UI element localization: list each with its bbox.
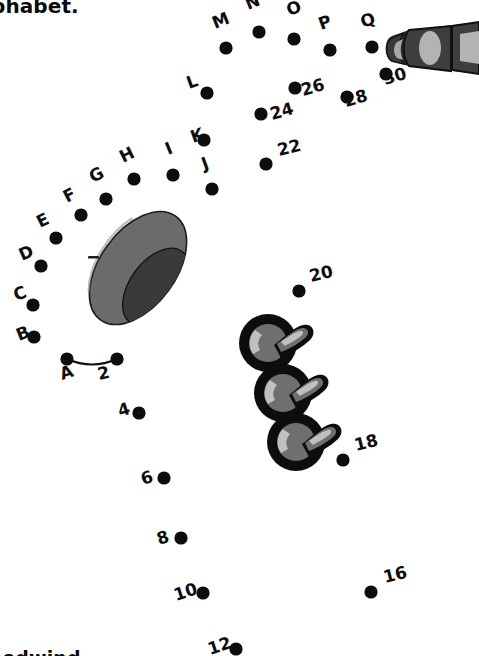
clarinet-key-2 bbox=[254, 364, 329, 422]
letter-dot-L[interactable]: L bbox=[184, 70, 214, 99]
number-dot-marker[interactable] bbox=[174, 531, 187, 544]
number-dot-marker[interactable] bbox=[132, 406, 145, 419]
number-dot-24[interactable]: 24 bbox=[254, 98, 296, 124]
number-dot-marker[interactable] bbox=[336, 453, 349, 466]
letter-dot-label: L bbox=[184, 70, 201, 93]
number-dot-label: 16 bbox=[381, 562, 409, 587]
bell-tick-mark bbox=[88, 256, 99, 259]
number-dot-label: 2 bbox=[96, 362, 112, 384]
clarinet-bell bbox=[70, 194, 207, 342]
letter-dot-I[interactable]: I bbox=[162, 138, 180, 182]
letter-dot-label: M bbox=[209, 8, 232, 33]
letter-dot-marker[interactable] bbox=[49, 231, 62, 244]
letter-dot-marker[interactable] bbox=[205, 182, 218, 195]
letter-dot-label: O bbox=[284, 0, 304, 20]
worksheet-canvas: ABCDEFGHIJKLMNOPQ 2468101216182022242628… bbox=[0, 0, 479, 656]
letter-dot-E[interactable]: E bbox=[33, 209, 63, 245]
number-dot-label: 6 bbox=[138, 466, 155, 489]
number-dot-label: 20 bbox=[307, 261, 335, 286]
letter-dot-P[interactable]: P bbox=[316, 11, 337, 57]
number-dot-4[interactable]: 4 bbox=[115, 398, 146, 421]
number-dot-marker[interactable] bbox=[292, 284, 305, 297]
letter-dot-K[interactable]: K bbox=[188, 123, 211, 147]
number-dot-label: 24 bbox=[268, 98, 296, 124]
letter-dot-label: G bbox=[85, 162, 107, 186]
number-dot-label: 18 bbox=[352, 430, 380, 455]
letter-dot-marker[interactable] bbox=[200, 86, 213, 99]
letter-dot-label: F bbox=[59, 183, 79, 206]
letter-dot-Q[interactable]: Q bbox=[358, 8, 379, 54]
letter-dot-label: I bbox=[162, 138, 175, 159]
number-dot-10[interactable]: 10 bbox=[171, 578, 210, 604]
clarinet-key-1 bbox=[239, 314, 314, 372]
letter-dot-G[interactable]: G bbox=[85, 162, 112, 205]
number-dot-label: 10 bbox=[171, 578, 200, 604]
letter-dot-D[interactable]: D bbox=[15, 241, 47, 273]
letter-dot-label: D bbox=[15, 241, 36, 265]
number-dot-label: 22 bbox=[275, 135, 303, 160]
number-dot-label: 26 bbox=[299, 74, 327, 100]
letter-dot-label: E bbox=[33, 209, 52, 232]
number-dot-label: 30 bbox=[381, 63, 409, 89]
number-dot-8[interactable]: 8 bbox=[154, 526, 188, 549]
number-dot-30[interactable]: 30 bbox=[379, 63, 409, 89]
number-dot-2[interactable]: 2 bbox=[96, 352, 124, 384]
number-dot-20[interactable]: 20 bbox=[292, 261, 335, 298]
dot-to-dot-artwork: ABCDEFGHIJKLMNOPQ 2468101216182022242628… bbox=[0, 0, 479, 656]
letter-dot-marker[interactable] bbox=[99, 192, 112, 205]
caption-bottom: oodwind t because bbox=[0, 596, 94, 656]
a-to-2-guide-stroke bbox=[67, 359, 117, 365]
number-dot-16[interactable]: 16 bbox=[364, 562, 409, 599]
letter-dot-label: Q bbox=[358, 8, 378, 32]
number-dot-marker[interactable] bbox=[157, 471, 170, 484]
letter-dot-label: A bbox=[57, 360, 76, 383]
number-dot-26[interactable]: 26 bbox=[288, 74, 326, 100]
letter-dot-label: C bbox=[11, 282, 30, 305]
number-dot-marker[interactable] bbox=[110, 352, 123, 365]
letter-dot-B[interactable]: B bbox=[13, 321, 41, 344]
number-dot-marker[interactable] bbox=[254, 107, 267, 120]
letter-dot-marker[interactable] bbox=[323, 43, 336, 56]
letter-dot-layer: ABCDEFGHIJKLMNOPQ bbox=[11, 0, 379, 384]
number-dot-18[interactable]: 18 bbox=[336, 430, 380, 467]
caption-top: phabet. bbox=[0, 0, 79, 18]
letter-dot-A[interactable]: A bbox=[57, 352, 76, 383]
letter-dot-M[interactable]: M bbox=[209, 8, 233, 55]
letter-dot-marker[interactable] bbox=[365, 40, 378, 53]
letter-dot-marker[interactable] bbox=[219, 41, 232, 54]
letter-dot-label: P bbox=[316, 11, 335, 34]
number-dot-label: 8 bbox=[154, 526, 171, 549]
letter-dot-F[interactable]: F bbox=[59, 183, 87, 221]
number-dot-marker[interactable] bbox=[259, 157, 272, 170]
letter-dot-marker[interactable] bbox=[127, 172, 140, 185]
clarinet-key-3 bbox=[267, 413, 342, 471]
letter-dot-C[interactable]: C bbox=[11, 282, 40, 312]
letter-dot-marker[interactable] bbox=[252, 25, 265, 38]
number-dot-22[interactable]: 22 bbox=[259, 135, 303, 171]
letter-dot-O[interactable]: O bbox=[284, 0, 304, 46]
letter-dot-label: J bbox=[198, 153, 212, 174]
number-dot-label: 12 bbox=[205, 632, 234, 656]
letter-dot-marker[interactable] bbox=[166, 168, 179, 181]
letter-dot-label: H bbox=[116, 142, 138, 166]
number-dot-label: 28 bbox=[342, 85, 370, 111]
letter-dot-label: N bbox=[242, 0, 263, 14]
caption-bottom-line-1: oodwind bbox=[0, 646, 94, 656]
letter-dot-marker[interactable] bbox=[74, 208, 87, 221]
number-dot-28[interactable]: 28 bbox=[340, 85, 369, 111]
number-dot-6[interactable]: 6 bbox=[138, 466, 171, 489]
number-dot-label: 4 bbox=[115, 398, 133, 421]
letter-dot-marker[interactable] bbox=[34, 259, 47, 272]
number-dot-12[interactable]: 12 bbox=[205, 632, 243, 656]
letter-dot-N[interactable]: N bbox=[242, 0, 266, 39]
letter-dot-marker[interactable] bbox=[287, 32, 300, 45]
number-dot-marker[interactable] bbox=[364, 585, 377, 598]
letter-dot-J[interactable]: J bbox=[198, 153, 219, 196]
letter-dot-H[interactable]: H bbox=[116, 142, 141, 185]
